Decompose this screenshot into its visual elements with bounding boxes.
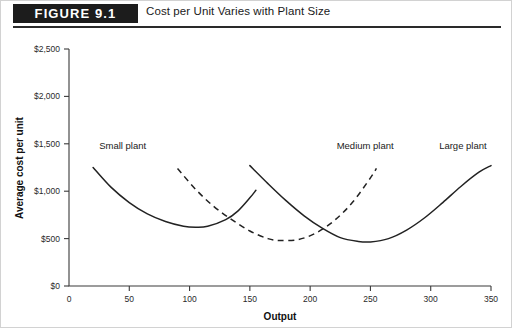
x-tick-label: 0 — [67, 294, 72, 304]
x-tick-label: 100 — [182, 294, 196, 304]
y-tick-label: $1,500 — [34, 139, 60, 149]
annotation-small-plant: Small plant — [99, 140, 146, 151]
annotation-medium-plant: Medium plant — [337, 140, 394, 151]
y-axis-title: Average cost per unit — [14, 116, 25, 219]
y-tick-label: $2,000 — [34, 91, 60, 101]
y-axis-tick-marks — [64, 49, 69, 286]
x-tick-label: 300 — [424, 294, 438, 304]
y-tick-label: $0 — [51, 281, 61, 291]
annotation-large-plant: Large plant — [439, 140, 487, 151]
x-tick-label: 200 — [303, 294, 317, 304]
figure-header: FIGURE 9.1 Cost per Unit Varies with Pla… — [1, 1, 512, 32]
axis-lines — [69, 49, 491, 286]
x-tick-label: 350 — [484, 294, 498, 304]
header-divider — [13, 26, 501, 28]
y-tick-label: $500 — [41, 234, 60, 244]
series-annotation-labels: Small plantMedium plantLarge plant — [99, 140, 487, 151]
figure-container: FIGURE 9.1 Cost per Unit Varies with Pla… — [0, 0, 512, 328]
chart-axes — [64, 49, 491, 291]
x-axis-tick-labels: 050100150200250300350 — [67, 294, 499, 304]
chart-plot-area: $0$500$1,000$1,500$2,000$2,500 050100150… — [1, 32, 512, 328]
cost-per-unit-chart: $0$500$1,000$1,500$2,000$2,500 050100150… — [1, 32, 512, 328]
curve-small-plant — [93, 168, 256, 228]
x-tick-label: 50 — [125, 294, 135, 304]
x-tick-label: 150 — [243, 294, 257, 304]
figure-number-banner: FIGURE 9.1 — [13, 4, 138, 23]
y-axis-tick-labels: $0$500$1,000$1,500$2,000$2,500 — [34, 44, 60, 291]
y-tick-label: $2,500 — [34, 44, 60, 54]
chart-series-curves — [93, 166, 491, 243]
figure-title: Cost per Unit Varies with Plant Size — [146, 5, 330, 17]
x-tick-label: 250 — [363, 294, 377, 304]
y-tick-label: $1,000 — [34, 186, 60, 196]
curve-medium-plant — [178, 168, 377, 240]
x-axis-tick-marks — [129, 286, 491, 291]
x-axis-title: Output — [264, 311, 297, 322]
